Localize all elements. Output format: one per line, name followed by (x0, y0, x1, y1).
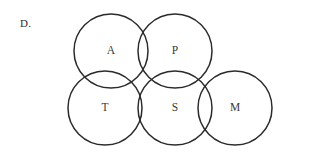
venn-diagram-canvas: A P T S M (0, 0, 330, 152)
venn-diagram-figure: D. A P T S M (0, 0, 330, 152)
venn-circle-group-s: S (138, 71, 212, 145)
venn-label-a: A (107, 44, 116, 56)
venn-label-t: T (101, 101, 108, 113)
venn-label-s: S (172, 101, 178, 113)
venn-circle-group-m: M (198, 71, 272, 145)
venn-circle-group-t: T (68, 71, 142, 145)
venn-label-m: M (230, 101, 240, 113)
venn-label-p: P (172, 44, 178, 56)
venn-circle-group-p: P (138, 14, 212, 88)
